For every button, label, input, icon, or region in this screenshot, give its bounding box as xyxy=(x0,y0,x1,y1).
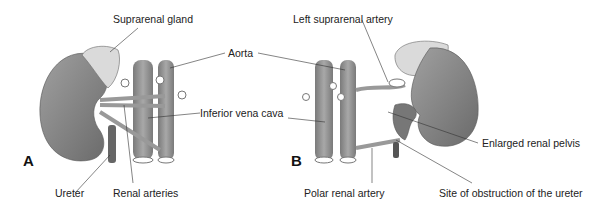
label-suprarenal-gland: Suprarenal gland xyxy=(113,13,193,25)
aorta-a xyxy=(158,60,174,160)
ureter-b xyxy=(393,142,399,158)
label-inferior-vena-cava: Inferior vena cava xyxy=(200,107,283,119)
label-ureter: Ureter xyxy=(55,187,84,199)
enlarged-pelvis xyxy=(393,104,416,140)
aorta-b xyxy=(340,60,356,160)
label-renal-arteries: Renal arteries xyxy=(113,187,178,199)
panel-b-illustration xyxy=(303,41,479,163)
diagram-canvas xyxy=(0,0,610,211)
label-enlarged-renal-pelvis: Enlarged renal pelvis xyxy=(482,137,580,149)
ureter-a xyxy=(108,125,116,163)
label-left-suprarenal-artery: Left suprarenal artery xyxy=(293,13,393,25)
label-polar-renal-artery: Polar renal artery xyxy=(304,187,385,199)
panel-letter-a: A xyxy=(23,152,34,169)
ivc-b xyxy=(315,60,333,160)
label-aorta: Aorta xyxy=(228,47,253,59)
panel-letter-b: B xyxy=(291,152,302,169)
label-site-of-obstruction: Site of obstruction of the ureter xyxy=(439,187,583,199)
panel-a-illustration xyxy=(40,46,186,163)
